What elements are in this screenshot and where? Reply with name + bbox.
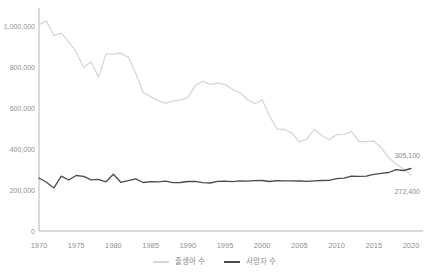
births-legend-label: 출생아 수 bbox=[175, 257, 205, 267]
deaths-end-value-label: 305,100 bbox=[395, 152, 420, 159]
x-axis-tick-labels: 1970197519801985199019952000200520102015… bbox=[31, 241, 420, 250]
y-tick-label: 400,000 bbox=[10, 146, 35, 153]
chart-legend: 출생아 수 사망자 수 bbox=[0, 257, 429, 267]
x-tick-label: 1985 bbox=[142, 241, 159, 250]
y-tick-label: 1,000,000 bbox=[4, 23, 35, 30]
x-tick-label: 2005 bbox=[291, 241, 308, 250]
deaths-line-swatch bbox=[224, 261, 240, 263]
x-tick-label: 1980 bbox=[105, 241, 122, 250]
x-tick-label: 1995 bbox=[217, 241, 234, 250]
y-tick-label: 600,000 bbox=[10, 105, 35, 112]
legend-item-births: 출생아 수 bbox=[153, 257, 205, 267]
x-tick-label: 2020 bbox=[403, 241, 420, 250]
births-end-value-label: 272,400 bbox=[395, 188, 420, 195]
x-tick-label: 1970 bbox=[31, 241, 48, 250]
legend-item-deaths: 사망자 수 bbox=[224, 257, 276, 267]
births-line-swatch bbox=[153, 261, 169, 263]
x-tick-label: 1990 bbox=[179, 241, 196, 250]
y-tick-label: 0 bbox=[31, 228, 35, 235]
data-series-lines bbox=[39, 21, 411, 188]
deaths-legend-label: 사망자 수 bbox=[246, 257, 276, 267]
x-tick-label: 2010 bbox=[328, 241, 345, 250]
chart-container: 0200,000400,000600,000800,0001,000,000 1… bbox=[0, 0, 429, 280]
deaths-line bbox=[39, 169, 411, 188]
x-tick-label: 2015 bbox=[365, 241, 382, 250]
births-line bbox=[39, 21, 411, 175]
y-axis-tick-labels: 0200,000400,000600,000800,0001,000,000 bbox=[4, 23, 35, 235]
x-tick-label: 1975 bbox=[68, 241, 85, 250]
y-tick-label: 800,000 bbox=[10, 64, 35, 71]
line-chart: 0200,000400,000600,000800,0001,000,000 1… bbox=[0, 0, 429, 280]
data-annotations: 305,100272,400 bbox=[395, 152, 420, 195]
x-tick-label: 2000 bbox=[254, 241, 271, 250]
y-tick-label: 200,000 bbox=[10, 187, 35, 194]
